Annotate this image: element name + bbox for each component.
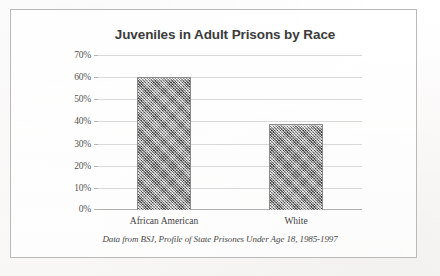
- y-axis-tick-label: 30%: [74, 139, 91, 149]
- chart-source-caption: Data from BSJ, Profile of State Prisones…: [40, 234, 400, 244]
- plot-area: 0%10%20%30%40%50%60%70%African AmericanW…: [98, 55, 362, 210]
- y-axis-tick-label: 50%: [74, 94, 91, 104]
- chart-title: Juveniles in Adult Prisons by Race: [60, 27, 390, 42]
- y-tick-mark: [94, 144, 98, 145]
- y-tick-mark: [94, 99, 98, 100]
- y-axis-tick-label: 20%: [74, 161, 91, 171]
- y-tick-mark: [94, 55, 98, 56]
- x-axis-label-african-american: African American: [98, 216, 230, 226]
- y-tick-mark: [94, 209, 98, 210]
- y-axis-tick-label: 60%: [74, 72, 91, 82]
- y-axis-tick-label: 40%: [74, 116, 91, 126]
- y-axis-tick-label: 10%: [74, 183, 91, 193]
- x-axis-label-white: White: [230, 216, 362, 226]
- bar-african-american: [137, 77, 191, 210]
- y-axis-tick-label: 0%: [79, 204, 91, 214]
- chart-screenshot: Juveniles in Adult Prisons by Race 0%10%…: [0, 0, 440, 276]
- bar-white: [269, 124, 323, 210]
- y-axis-tick-label: 70%: [74, 50, 91, 60]
- y-tick-mark: [94, 166, 98, 167]
- y-tick-mark: [94, 188, 98, 189]
- y-tick-mark: [94, 121, 98, 122]
- y-tick-mark: [94, 77, 98, 78]
- gridline-70%: 70%: [98, 55, 362, 56]
